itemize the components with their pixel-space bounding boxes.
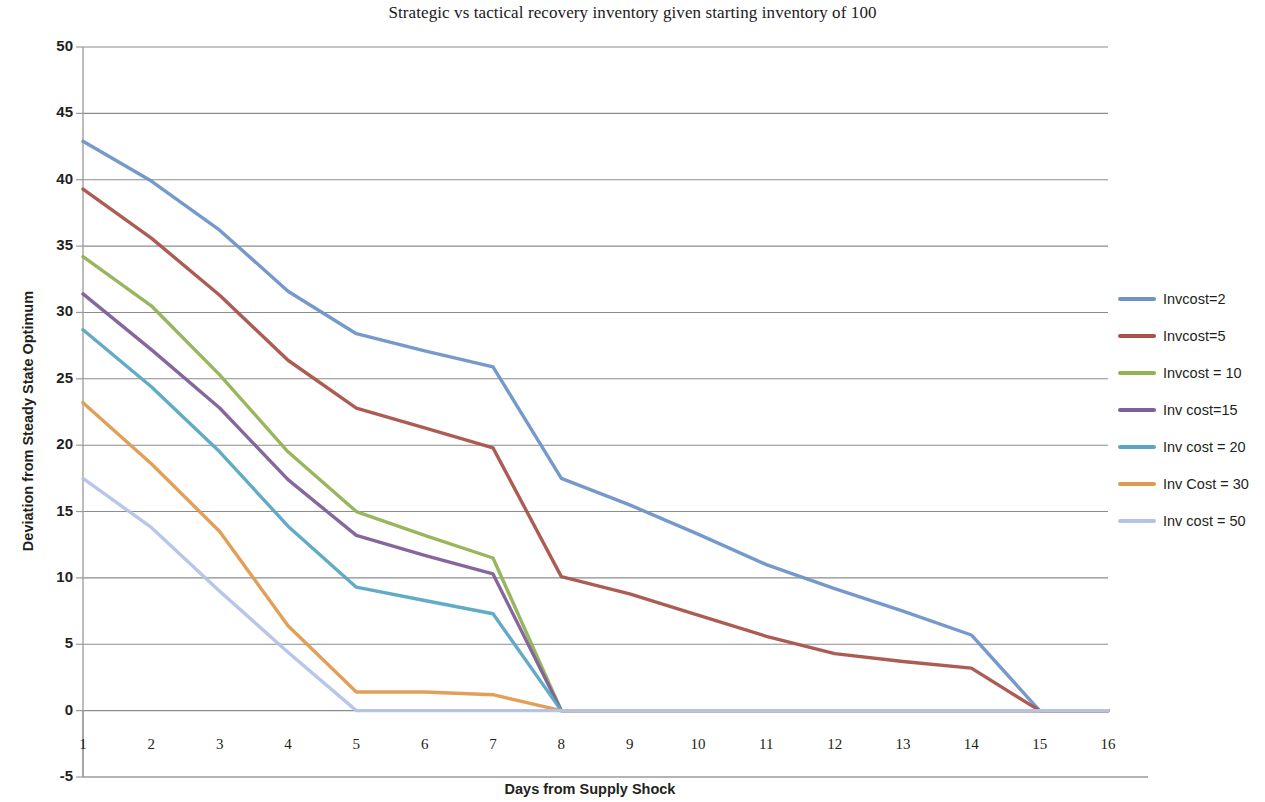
x-tick-label: 1 xyxy=(63,736,103,753)
legend-label: Inv cost = 20 xyxy=(1163,439,1246,455)
x-tick-label: 5 xyxy=(336,736,376,753)
y-tick-label: 35 xyxy=(27,236,73,253)
legend-color-swatch xyxy=(1118,297,1156,301)
legend-label: Inv cost=15 xyxy=(1163,402,1238,418)
x-tick-label: 7 xyxy=(473,736,513,753)
legend-label: Inv Cost = 30 xyxy=(1163,476,1249,492)
x-tick-label: 4 xyxy=(268,736,308,753)
y-tick-label: 5 xyxy=(27,634,73,651)
chart-legend: Invcost=2Invcost=5Invcost = 10Inv cost=1… xyxy=(1118,288,1265,547)
legend-label: Invcost=2 xyxy=(1163,291,1225,307)
x-tick-label: 10 xyxy=(678,736,718,753)
y-tick-label: 25 xyxy=(27,369,73,386)
legend-label: Inv cost = 50 xyxy=(1163,513,1246,529)
y-tick-label: 50 xyxy=(27,37,73,54)
legend-item[interactable]: Invcost=2 xyxy=(1118,288,1265,309)
chart-title: Strategic vs tactical recovery inventory… xyxy=(0,3,1265,23)
series-line-5 xyxy=(83,403,1108,711)
legend-label: Invcost=5 xyxy=(1163,328,1225,344)
series-line-2 xyxy=(83,257,1108,711)
legend-item[interactable]: Inv cost = 20 xyxy=(1118,436,1265,457)
legend-color-swatch xyxy=(1118,334,1156,338)
legend-item[interactable]: Invcost = 10 xyxy=(1118,362,1265,383)
y-tick-label: 10 xyxy=(27,568,73,585)
x-tick-label: 16 xyxy=(1088,736,1128,753)
series-line-4 xyxy=(83,330,1108,711)
legend-item[interactable]: Inv cost = 50 xyxy=(1118,510,1265,531)
legend-item[interactable]: Invcost=5 xyxy=(1118,325,1265,346)
x-tick-label: 8 xyxy=(541,736,581,753)
series-line-3 xyxy=(83,294,1108,711)
y-tick-label: -5 xyxy=(27,767,73,784)
x-tick-label: 11 xyxy=(746,736,786,753)
series-line-6 xyxy=(83,478,1108,710)
legend-color-swatch xyxy=(1118,482,1156,486)
legend-color-swatch xyxy=(1118,445,1156,449)
legend-color-swatch xyxy=(1118,408,1156,412)
legend-item[interactable]: Inv Cost = 30 xyxy=(1118,473,1265,494)
legend-color-swatch xyxy=(1118,371,1156,375)
x-axis-title: Days from Supply Shock xyxy=(0,781,1180,797)
legend-label: Invcost = 10 xyxy=(1163,365,1242,381)
x-tick-label: 3 xyxy=(200,736,240,753)
legend-color-swatch xyxy=(1118,519,1156,523)
x-tick-label: 9 xyxy=(610,736,650,753)
x-tick-label: 6 xyxy=(405,736,445,753)
x-tick-label: 12 xyxy=(815,736,855,753)
y-tick-label: 15 xyxy=(27,502,73,519)
y-tick-label: 0 xyxy=(27,701,73,718)
y-tick-label: 30 xyxy=(27,302,73,319)
y-tick-label: 40 xyxy=(27,170,73,187)
legend-item[interactable]: Inv cost=15 xyxy=(1118,399,1265,420)
x-tick-label: 2 xyxy=(131,736,171,753)
x-tick-label: 15 xyxy=(1020,736,1060,753)
plot-area xyxy=(0,0,1265,802)
chart-container: Strategic vs tactical recovery inventory… xyxy=(0,0,1265,802)
y-axis-title: Deviation from Steady State Optimum xyxy=(20,241,36,601)
series-line-1 xyxy=(83,189,1108,711)
y-tick-label: 45 xyxy=(27,103,73,120)
y-tick-label: 20 xyxy=(27,435,73,452)
x-tick-label: 13 xyxy=(883,736,923,753)
x-tick-label: 14 xyxy=(951,736,991,753)
